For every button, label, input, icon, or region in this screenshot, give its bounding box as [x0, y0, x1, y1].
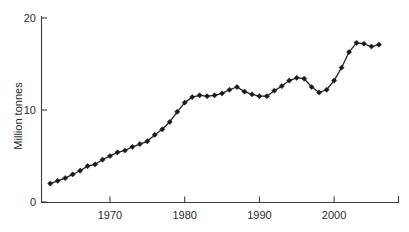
- data-point-marker: [48, 181, 53, 186]
- data-point-marker: [212, 93, 217, 98]
- data-point-marker: [107, 153, 112, 158]
- y-axis-tick-labels: 01020: [24, 12, 36, 208]
- y-tick-label: 0: [30, 196, 36, 208]
- line-chart: 01020 Million tonnes 1970198019902000: [0, 0, 409, 232]
- x-axis-ticks: [110, 197, 334, 203]
- y-axis: 01020 Million tonnes: [12, 12, 47, 208]
- x-tick-label: 1980: [172, 209, 196, 221]
- y-axis-title: Million tonnes: [12, 82, 24, 150]
- x-axis-tick-labels: 1970198019902000: [98, 209, 347, 221]
- series-markers: [48, 40, 382, 186]
- data-point-marker: [137, 141, 142, 146]
- y-tick-label: 20: [24, 12, 36, 24]
- data-point-marker: [249, 92, 254, 97]
- data-point-marker: [219, 91, 224, 96]
- chart-container: 01020 Million tonnes 1970198019902000: [0, 0, 409, 232]
- data-point-marker: [227, 87, 232, 92]
- data-point-marker: [257, 94, 262, 99]
- data-point-marker: [294, 75, 299, 80]
- y-tick-label: 10: [24, 104, 36, 116]
- data-point-marker: [197, 93, 202, 98]
- data-point-marker: [369, 44, 374, 49]
- data-point-marker: [205, 94, 210, 99]
- data-point-marker: [55, 178, 60, 183]
- data-point-marker: [115, 150, 120, 155]
- series-line: [50, 43, 379, 184]
- y-axis-ticks: [42, 18, 48, 202]
- series-group: [48, 40, 382, 186]
- data-point-marker: [339, 65, 344, 70]
- data-point-marker: [361, 41, 366, 46]
- data-point-marker: [63, 175, 68, 180]
- data-point-marker: [70, 172, 75, 177]
- data-point-marker: [376, 42, 381, 47]
- data-point-marker: [122, 148, 127, 153]
- x-axis: 1970198019902000: [42, 196, 400, 221]
- x-tick-label: 2000: [322, 209, 346, 221]
- data-point-marker: [130, 144, 135, 149]
- x-tick-label: 1970: [98, 209, 122, 221]
- x-tick-label: 1990: [247, 209, 271, 221]
